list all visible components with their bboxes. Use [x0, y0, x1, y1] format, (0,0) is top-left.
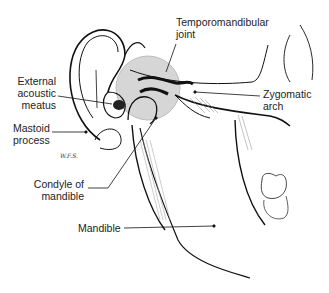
artist-signature: W.F.S.	[60, 152, 78, 159]
tmj-illustration	[0, 0, 329, 293]
label-line: External	[4, 75, 56, 87]
label-line: acoustic	[4, 87, 56, 99]
label-line: Mastoid	[13, 122, 50, 134]
meatus-opening	[113, 100, 125, 110]
label-line: Zygomatic	[263, 88, 311, 100]
label-line: process	[13, 134, 50, 146]
label-tmj: Temporomandibular joint	[176, 16, 269, 40]
label-line: arch	[263, 100, 311, 112]
label-line: joint	[176, 28, 269, 40]
label-mastoid-process: Mastoid process	[13, 122, 50, 146]
label-line: meatus	[4, 99, 56, 111]
label-external-acoustic-meatus: External acoustic meatus	[4, 75, 56, 111]
label-mandible: Mandible	[78, 222, 121, 234]
label-condyle-of-mandible: Condyle of mandible	[24, 178, 84, 202]
label-line: mandible	[24, 190, 84, 202]
tooth-outline	[261, 173, 286, 198]
label-line: Temporomandibular	[176, 16, 269, 28]
label-line: Condyle of	[24, 178, 84, 190]
label-zygomatic-arch: Zygomatic arch	[263, 88, 311, 112]
